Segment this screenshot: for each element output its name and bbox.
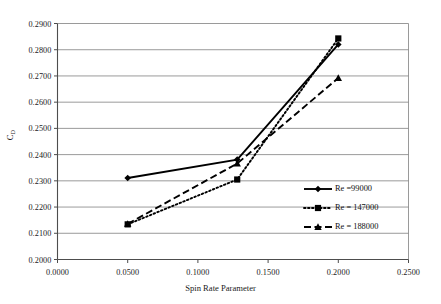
series-line-0 — [128, 44, 339, 177]
x-axis-tick-label: 0.2000 — [327, 268, 350, 277]
legend-marker-icon — [303, 221, 333, 233]
y-axis-title-subscript: D — [9, 130, 16, 135]
legend-marker-icon — [303, 183, 333, 195]
data-point-marker-1-2 — [335, 35, 341, 41]
x-axis-title: Spin Rate Parameter — [0, 283, 441, 293]
legend-item[interactable]: Re =99000 — [303, 183, 372, 195]
legend-item-label: Re = 188000 — [335, 223, 378, 231]
y-axis-title-base: C — [5, 134, 15, 140]
data-point-marker-2-2 — [335, 74, 342, 81]
series-line-1 — [128, 38, 339, 224]
y-axis-tick-label: 0.2600 — [0, 98, 52, 107]
legend-point-marker — [315, 205, 321, 211]
legend-item-label: Re = 147000 — [335, 204, 378, 212]
x-axis-tick-label: 0.1000 — [186, 268, 209, 277]
legend-marker-icon — [303, 202, 333, 214]
data-point-marker-1-1 — [234, 176, 240, 182]
legend-point-marker — [315, 186, 322, 193]
y-axis-tick-label: 0.2100 — [0, 229, 52, 238]
legend-item[interactable]: Re = 188000 — [303, 221, 378, 233]
legend-item-label: Re =99000 — [335, 185, 372, 193]
y-axis-tick-label: 0.2000 — [0, 255, 52, 264]
y-axis-tick-label: 0.2300 — [0, 176, 52, 185]
y-axis-tick-label: 0.2200 — [0, 203, 52, 212]
x-axis-tick-label: 0.2500 — [397, 268, 420, 277]
x-axis-tick-label: 0.0000 — [46, 268, 69, 277]
y-axis-tick-label: 0.2900 — [0, 19, 52, 28]
chart-plot-area — [0, 0, 441, 304]
x-axis-tick-label: 0.0500 — [116, 268, 139, 277]
legend-item[interactable]: Re = 147000 — [303, 202, 378, 214]
x-axis-tick-label: 0.1500 — [257, 268, 280, 277]
y-axis-tick-label: 0.2800 — [0, 45, 52, 54]
data-point-marker-0-0 — [124, 175, 131, 182]
y-axis-tick-label: 0.2700 — [0, 71, 52, 80]
y-axis-tick-label: 0.2400 — [0, 150, 52, 159]
y-axis-title: CD — [5, 130, 15, 140]
chart-figure: 0.20000.21000.22000.23000.24000.25000.26… — [0, 0, 441, 304]
